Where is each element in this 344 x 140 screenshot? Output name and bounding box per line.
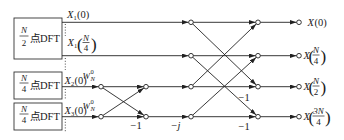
- node: [189, 84, 194, 89]
- block-numerator: N: [20, 25, 28, 35]
- denominator: 4: [84, 43, 89, 53]
- node: [256, 114, 261, 119]
- dft-block-n4-b: N 4 点DFT: [14, 103, 62, 130]
- numerator: N: [312, 76, 320, 86]
- output-label-x0: X (0): [307, 17, 328, 29]
- numerator: N: [312, 45, 320, 55]
- node: [189, 20, 194, 25]
- node: [144, 114, 149, 119]
- twiddle-superscript: 0: [91, 68, 94, 75]
- node: [256, 20, 261, 25]
- signal-flow-diagram: N 2 点DFT N 4 点DFT N 4 点DFT: [0, 0, 344, 140]
- twiddle-subscript: N: [90, 75, 96, 82]
- numerator: 3N: [312, 106, 325, 116]
- output-label-x-n2: X ( N 2 ): [303, 76, 327, 98]
- block-denominator: 4: [22, 115, 27, 125]
- denominator: 4: [314, 56, 319, 66]
- input-label-x2-0: X 2 (0) W N 0: [64, 68, 96, 87]
- output-node: [297, 114, 302, 119]
- output-node: [297, 53, 302, 58]
- node: [256, 84, 261, 89]
- symbol: X: [307, 17, 315, 28]
- input-label-x1-n4: X 1 ( N 4 ): [67, 33, 97, 54]
- right-paren: ): [321, 47, 327, 66]
- output-node: [297, 84, 302, 89]
- right-paren: ): [91, 35, 97, 54]
- block-numerator: N: [20, 73, 28, 83]
- right-paren: ): [325, 108, 331, 127]
- block-label: 点DFT: [30, 111, 60, 122]
- dft-block-n2: N 2 点DFT: [14, 18, 62, 59]
- denominator: 4: [316, 117, 321, 127]
- denominator: 2: [314, 87, 319, 97]
- input-label-x3-0: X 3 (0) W N 0: [64, 98, 96, 117]
- output-node: [297, 20, 302, 25]
- gain-label-minus-1: −1: [239, 92, 250, 103]
- argument: (0): [77, 9, 90, 21]
- twiddle-superscript: 0: [91, 98, 94, 105]
- dft-block-n4-a: N 4 点DFT: [14, 72, 62, 99]
- numerator: N: [82, 33, 90, 43]
- gain-label-minus-1: −1: [239, 121, 250, 132]
- twiddle-subscript: N: [90, 105, 96, 112]
- node: [144, 84, 149, 89]
- argument: (0): [315, 17, 328, 29]
- gain-label-minus-j: −j: [171, 120, 181, 131]
- output-label-x-3n4: X ( 3N 4 ): [303, 106, 331, 128]
- node: [189, 53, 194, 58]
- signal-paths: [62, 22, 299, 116]
- block-numerator: N: [20, 104, 28, 114]
- node: [99, 84, 104, 89]
- node: [256, 53, 261, 58]
- nodes: [99, 20, 302, 119]
- output-label-x-n4: X ( N 4 ): [303, 45, 327, 67]
- block-label: 点DFT: [30, 80, 60, 91]
- block-denominator: 4: [22, 84, 27, 94]
- gain-label-minus-1: −1: [131, 120, 142, 131]
- node: [99, 114, 104, 119]
- block-denominator: 2: [22, 38, 27, 48]
- input-label-x1-0: X 1 (0): [66, 9, 90, 21]
- node: [189, 114, 194, 119]
- right-paren: ): [321, 78, 327, 97]
- block-label: 点DFT: [30, 33, 60, 44]
